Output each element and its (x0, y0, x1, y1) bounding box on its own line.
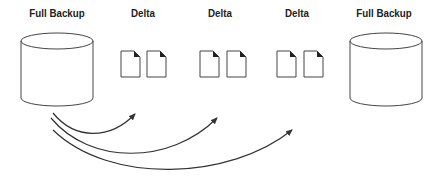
document-icon (304, 51, 323, 77)
document-icon (277, 51, 296, 77)
database-cylinder-icon (350, 33, 422, 106)
arrow-to-delta-1 (53, 113, 135, 133)
arrow-to-delta-3 (53, 130, 292, 169)
document-icon (200, 51, 219, 77)
database-cylinder-icon (21, 33, 93, 106)
document-icon (121, 51, 140, 77)
document-icon (147, 51, 166, 77)
arrow-to-delta-2 (51, 118, 217, 153)
document-icon (227, 51, 246, 77)
